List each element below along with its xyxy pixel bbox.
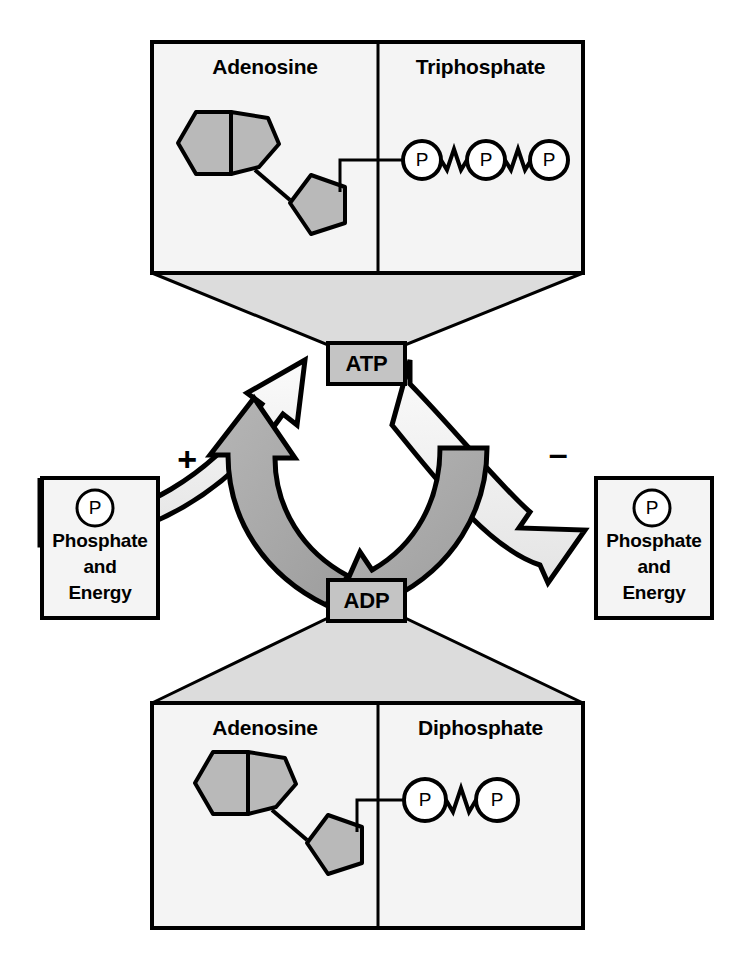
atp-adp-cycle-diagram: Adenosine Triphosphate P P P Adenosine D… bbox=[0, 0, 750, 958]
arrow-adp-to-atp bbox=[210, 398, 348, 605]
bottom-panel-left-title: Adenosine bbox=[152, 716, 378, 740]
top-phosphate-label-3: P bbox=[537, 149, 561, 171]
bottom-phosphate-label-1: P bbox=[413, 789, 437, 811]
top-funnel-connector bbox=[152, 273, 583, 345]
plus-sign-label: + bbox=[172, 440, 202, 479]
top-panel-right-title: Triphosphate bbox=[378, 55, 583, 79]
minus-sign-label: – bbox=[543, 434, 573, 473]
left-box-line3: Energy bbox=[42, 582, 158, 603]
left-box-line2: and bbox=[42, 556, 158, 577]
right-box-line2: and bbox=[596, 556, 712, 577]
diagram-canvas bbox=[0, 0, 750, 958]
bottom-funnel-connector bbox=[152, 618, 583, 703]
adp-node-label: ADP bbox=[328, 588, 405, 614]
right-box-line3: Energy bbox=[596, 582, 712, 603]
atp-node-label: ATP bbox=[328, 351, 405, 377]
right-phosphate-glyph-label: P bbox=[640, 497, 664, 519]
top-panel-left-title: Adenosine bbox=[152, 55, 378, 79]
left-box-line1: Phosphate bbox=[42, 530, 158, 551]
bottom-phosphate-label-2: P bbox=[485, 789, 509, 811]
right-box-line1: Phosphate bbox=[596, 530, 712, 551]
left-phosphate-glyph-label: P bbox=[83, 497, 107, 519]
top-phosphate-label-1: P bbox=[410, 149, 434, 171]
top-phosphate-label-2: P bbox=[474, 149, 498, 171]
bottom-panel-right-title: Diphosphate bbox=[378, 716, 583, 740]
